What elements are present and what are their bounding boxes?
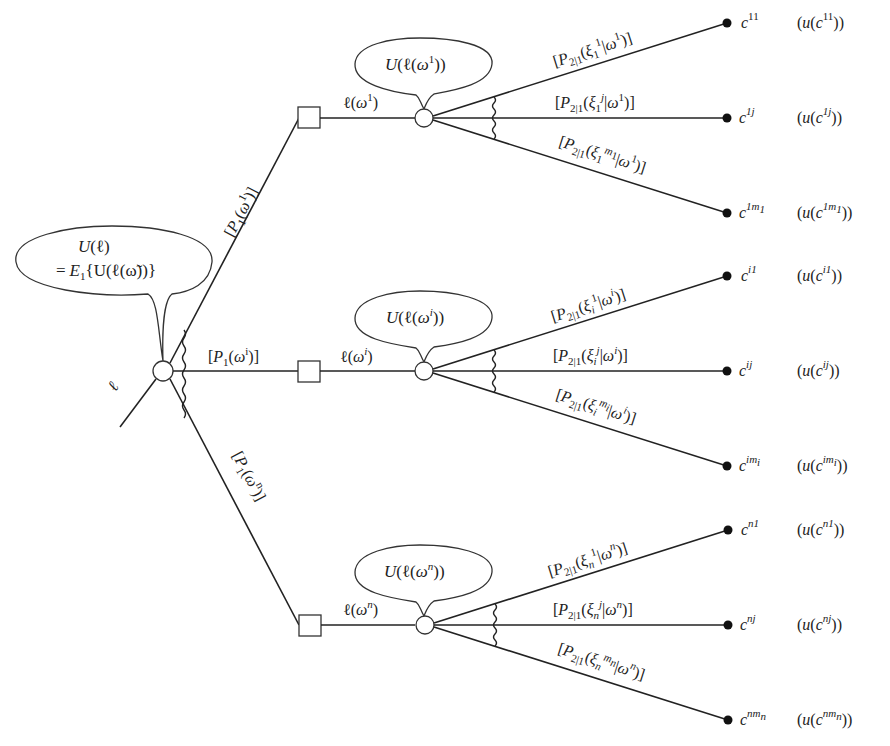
- terminal-node-1-1: [723, 19, 732, 28]
- prob-label-1-m: [P2|1(ξ1m1|ω1)]: [556, 130, 649, 179]
- branch-i: ℓ(ωi) U(ℓ(ωi)) [P2|1(ξi1|ωi)] [P2|1(ξij|…: [298, 263, 847, 475]
- consequence-i-1: ci1: [741, 263, 757, 284]
- prob-label-branch-1: [P1(ω1)]: [218, 183, 263, 241]
- consequence-i-j: cij: [739, 358, 752, 379]
- root-chance-node: [153, 361, 173, 381]
- terminal-node-i-j: [723, 367, 732, 376]
- consequence-1-1: c11: [741, 10, 759, 31]
- consequence-n-1: cn1: [741, 517, 759, 538]
- branch-1: ℓ(ω1) U(ℓ(ω1)) [P2|1(ξ11|ω1)] [P2|1(ξ1j|…: [298, 10, 852, 222]
- utility-bubble-n-text: U(ℓ(ωn)): [384, 560, 445, 581]
- root-lottery-label: ℓ: [104, 379, 122, 394]
- utility-n-1: (u(cn1)): [797, 517, 844, 539]
- decision-node-i: [298, 361, 320, 382]
- utility-n-m: (u(cnmn)): [797, 707, 852, 729]
- svg-text:=E1{U(ℓ(ω̃))}: =E1{U(ℓ(ω̃))}: [56, 261, 156, 282]
- terminal-node-n-j: [724, 621, 733, 630]
- utility-i-j: (u(cij)): [797, 358, 840, 380]
- prob-label-i-1: [P2|1(ξi1|ωi)]: [548, 283, 629, 328]
- utility-bubble-i-text: U(ℓ(ωi)): [386, 306, 444, 327]
- decision-tree-diagram: ℓ U(ℓ) =E1{U(ℓ(ω̃))} [P1(ω1)] [P1(ωi)] […: [0, 0, 890, 746]
- terminal-node-n-m: [724, 716, 733, 725]
- svg-text:U(ℓ): U(ℓ): [78, 237, 110, 256]
- consequence-1-m: c1m1: [739, 200, 765, 221]
- consequence-i-m: cimi: [739, 453, 760, 474]
- terminal-node-1-m: [723, 209, 732, 218]
- prob-label-branch-n: [P1(ωn)]: [227, 447, 272, 505]
- terminal-node-1-j: [723, 114, 732, 123]
- prob-label-n-1: [P2|1(ξn1|ωn)]: [545, 536, 630, 583]
- prob-label-i-m: [P2|1(ξimi|ωi)]: [553, 383, 639, 430]
- terminal-node-i-1: [723, 272, 732, 281]
- utility-n-j: (u(cnj)): [797, 612, 842, 634]
- chance-node-n: [416, 616, 434, 634]
- utility-1-m: (u(c1m1)): [797, 200, 852, 222]
- utility-bubble-1-text: U(ℓ(ω1)): [385, 53, 446, 74]
- chance-node-1: [415, 109, 433, 127]
- terminal-node-i-m: [723, 462, 732, 471]
- prob-label-branch-i: [P1(ωi)]: [208, 345, 259, 368]
- consequence-n-m: cnmn: [740, 707, 767, 728]
- utility-1-1: (u(c11)): [797, 10, 844, 32]
- utility-1-j: (u(c1j)): [797, 105, 842, 127]
- prob-label-i-j: [P2|1(ξij|ωi)]: [553, 344, 628, 367]
- branch-n: ℓ(ωn) U(ℓ(ωn)) [P2|1(ξn1|ωn)] [P2|1(ξnj|…: [299, 517, 852, 729]
- utility-i-1: (u(ci1)): [797, 263, 842, 285]
- prob-label-n-j: [P2|1(ξnj|ωn)]: [553, 598, 633, 621]
- decision-node-1: [298, 107, 320, 128]
- utility-i-m: (u(cimi)): [797, 453, 847, 475]
- consequence-1-j: c1j: [739, 105, 755, 126]
- edge-to-branch-n: [170, 379, 299, 625]
- prob-label-n-m: [P2|1(ξnmn|ωn)]: [555, 637, 648, 686]
- lottery-label-1: ℓ(ω1): [343, 91, 378, 112]
- lottery-label-n: ℓ(ωn): [343, 598, 378, 619]
- prob-label-1-j: [P2|1(ξ1j|ω1)]: [555, 91, 635, 114]
- terminal-node-n-1: [724, 526, 733, 535]
- chance-node-i: [415, 362, 433, 380]
- root-incoming-edge: [120, 379, 156, 427]
- consequence-n-j: cnj: [740, 612, 756, 633]
- lottery-label-i: ℓ(ωi): [340, 345, 373, 366]
- decision-node-n: [299, 615, 321, 636]
